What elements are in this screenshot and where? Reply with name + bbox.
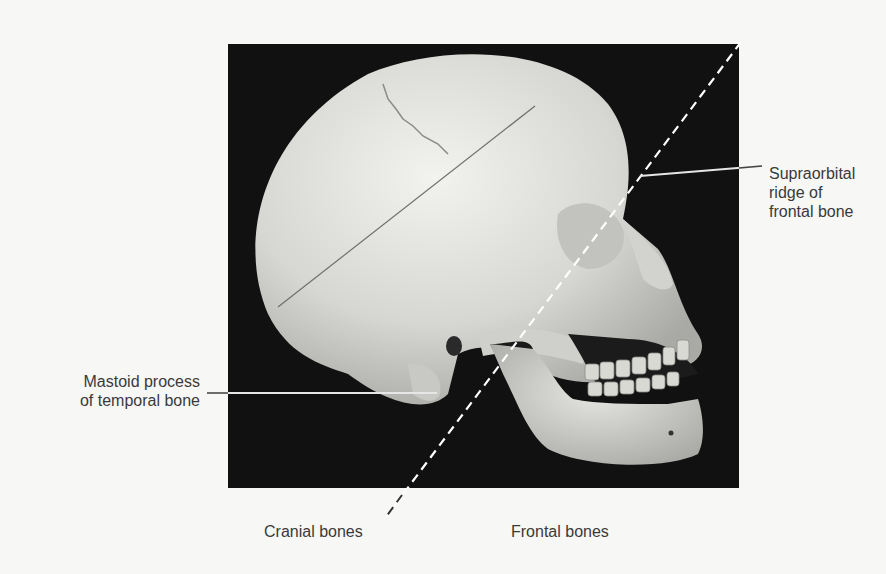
dividing-line-below (386, 495, 402, 517)
annotation-overlay (0, 0, 886, 574)
label-supraorbital-ridge: Supraorbital ridge of frontal bone (769, 164, 855, 221)
label-line: Mastoid process (80, 372, 200, 391)
label-line: of temporal bone (80, 391, 200, 410)
label-line: Supraorbital (769, 164, 855, 183)
supraorbital-leader-outside (739, 166, 762, 168)
label-cranial-bones: Cranial bones (264, 522, 363, 541)
label-frontal-bones: Frontal bones (511, 522, 609, 541)
label-line: frontal bone (769, 202, 855, 221)
dividing-line (386, 42, 741, 517)
label-mastoid-process: Mastoid process of temporal bone (80, 372, 200, 410)
label-line: ridge of (769, 183, 855, 202)
